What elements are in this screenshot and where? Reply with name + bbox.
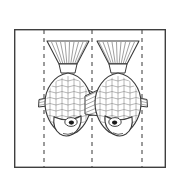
- fish-pattern-figure: Fish fold-pattern sheet Rectangular shee…: [0, 0, 175, 183]
- fish-pattern-sheet: Fish fold-pattern sheet Rectangular shee…: [0, 0, 175, 183]
